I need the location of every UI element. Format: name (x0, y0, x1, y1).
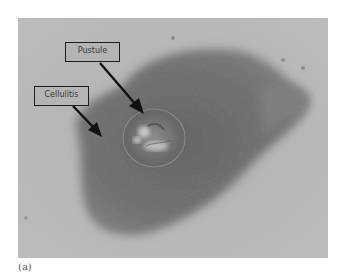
cellulitis-label: Cellulitis (34, 86, 89, 106)
pustule-label: Pustule (65, 42, 120, 62)
figure-caption: (a) (18, 261, 32, 273)
